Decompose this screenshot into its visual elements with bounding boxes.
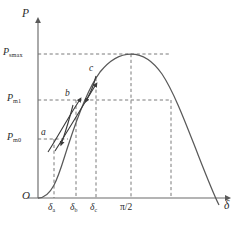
- origin-label: O: [22, 190, 30, 201]
- ytick-psmax-sub: smax: [9, 51, 22, 58]
- plot-canvas: [0, 0, 240, 231]
- xtick-delta-b-sub: b: [74, 207, 77, 213]
- xtick-label-delta-c: δc: [90, 203, 97, 213]
- xtick-label-delta-a: δa: [48, 203, 55, 213]
- ytick-label-pm1: Pm1: [7, 93, 21, 103]
- y-axis-label: P: [22, 8, 29, 20]
- xtick-delta-c-sub: c: [94, 207, 97, 213]
- power-angle-curve-figure: P δ O Psmax Pm1 Pm0 δa δb δc π/2 a b c: [0, 0, 240, 231]
- xtick-label-half-pi: π/2: [120, 203, 132, 213]
- point-label-b: b: [65, 89, 70, 99]
- point-label-c: c: [89, 64, 93, 74]
- trajectory-arrows: [48, 76, 96, 152]
- xtick-label-delta-b: δb: [70, 203, 77, 213]
- ytick-pm0-sub: m0: [13, 136, 21, 143]
- point-label-a: a: [41, 128, 46, 138]
- xtick-delta-a-sub: a: [52, 207, 55, 213]
- dashed-tick-lines: [54, 54, 171, 198]
- x-axis-label: δ: [224, 200, 229, 212]
- ytick-pm1-sub: m1: [13, 97, 21, 104]
- ytick-label-psmax: Psmax: [3, 47, 23, 57]
- power-angle-sine-curve: [38, 54, 219, 205]
- ytick-label-pm0: Pm0: [7, 132, 21, 142]
